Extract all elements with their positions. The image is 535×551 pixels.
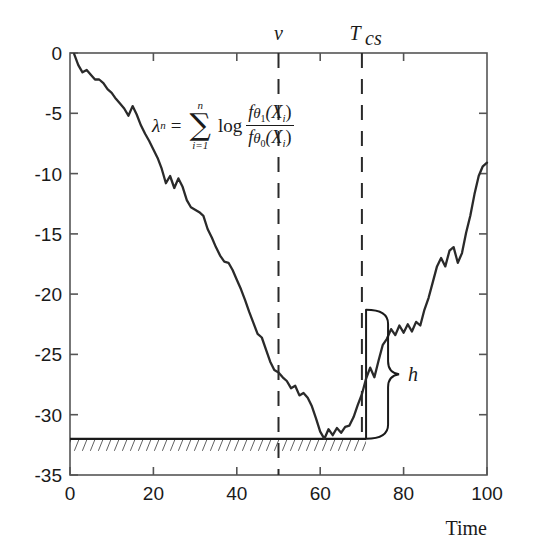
y-label-m15: -15 (35, 224, 62, 245)
formula-summation: n ∑ i=1 (189, 100, 210, 151)
x-label-20: 20 (143, 483, 164, 504)
formula-log: log (218, 116, 242, 135)
x-label-0: 0 (65, 483, 76, 504)
formula-num-close: ) (286, 102, 292, 122)
x-tick-labels: 0 20 40 60 80 100 (65, 483, 503, 504)
lambda-formula-annotation: λn = n ∑ i=1 log fθ1(Xi) fθ0(Xi) (152, 100, 296, 151)
y-label-m30: -30 (35, 405, 62, 426)
tcs-label: T (349, 22, 362, 44)
formula-sum-lower: i=1 (192, 140, 208, 151)
formula-lambda: λ (152, 116, 160, 135)
figure-container: 0 -5 -10 -15 -20 -25 -30 -35 0 20 40 60 … (0, 0, 535, 551)
x-label-40: 40 (226, 483, 247, 504)
y-label-m5: -5 (45, 103, 62, 124)
formula-numerator: fθ1(Xi) (246, 101, 293, 125)
formula-equals: = (171, 116, 182, 135)
y-label-0: 0 (51, 43, 62, 64)
tcs-label-group: T cs (349, 22, 381, 49)
formula-lambda-sub: n (160, 120, 166, 131)
nu-label: ν (274, 22, 283, 44)
y-label-m10: -10 (35, 164, 62, 185)
y-tick-labels: 0 -5 -10 -15 -20 -25 -30 -35 (35, 43, 62, 486)
chart-canvas: 0 -5 -10 -15 -20 -25 -30 -35 0 20 40 60 … (0, 0, 535, 551)
x-label-80: 80 (393, 483, 414, 504)
formula-denominator: fθ0(Xi) (246, 126, 293, 150)
formula-den-theta: θ (253, 130, 260, 146)
formula-sigma: ∑ (189, 111, 210, 140)
tcs-sublabel: cs (365, 27, 382, 49)
threshold-h-label: h (408, 363, 418, 385)
y-label-m25: -25 (35, 344, 62, 365)
y-label-m35: -35 (35, 465, 62, 486)
formula-num-theta: θ (253, 105, 260, 121)
formula-den-close: ) (286, 127, 292, 147)
x-label-100: 100 (471, 483, 503, 504)
formula-den-arg: (X (266, 127, 283, 147)
y-label-m20: -20 (35, 284, 62, 305)
x-axis-title: Time (445, 517, 487, 539)
hatch-fill (70, 439, 366, 451)
formula-fraction: fθ1(Xi) fθ0(Xi) (246, 101, 293, 150)
x-label-60: 60 (310, 483, 331, 504)
hatched-baseline (70, 439, 366, 451)
formula-num-arg: (X (266, 102, 283, 122)
